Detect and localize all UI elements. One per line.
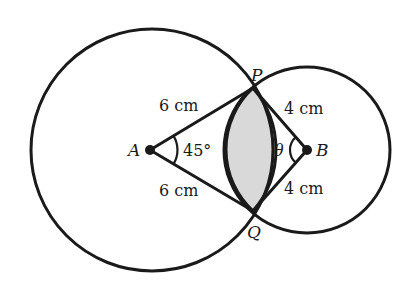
label-P: P: [250, 65, 263, 85]
intersecting-circles-diagram: A B P Q 6 cm 6 cm 4 cm 4 cm 45° θ: [0, 0, 410, 287]
angle-label-B: θ: [274, 141, 284, 160]
length-label-AQ: 6 cm: [159, 181, 198, 200]
length-label-AP: 6 cm: [159, 96, 198, 115]
angle-arc-A: [174, 136, 178, 164]
length-label-BQ: 4 cm: [284, 179, 323, 198]
label-Q: Q: [247, 222, 261, 242]
point-A-dot: [145, 145, 155, 155]
angle-arc-B: [290, 137, 296, 163]
point-B-dot: [302, 145, 312, 155]
length-label-BP: 4 cm: [284, 99, 323, 118]
angle-label-A: 45°: [183, 141, 211, 160]
label-A: A: [126, 140, 140, 160]
label-B: B: [315, 140, 329, 160]
